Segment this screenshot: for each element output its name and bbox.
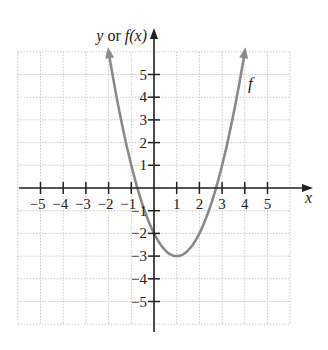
y-tick-label: −1 [131,203,147,219]
y-tick-label: 2 [140,135,148,151]
y-axis-arrow-icon [150,28,158,39]
x-tick-label: 4 [241,196,249,212]
function-graph: −5−4−3−2−112345−5−4−3−2−112345 y or f(x)… [0,0,328,350]
y-tick-label: 3 [140,112,148,128]
y-tick-label: −3 [131,248,147,264]
curve-label-f: f [248,74,255,93]
y-axis-label-or: or [103,27,124,44]
y-axis-label: y or f(x) [94,27,147,45]
y-tick-label: 5 [140,67,148,83]
x-tick-label: 5 [264,196,272,212]
x-axis-label: x [304,189,312,206]
x-tick-label: −4 [52,196,68,212]
x-tick-label: 2 [196,196,204,212]
y-tick-label: 1 [140,157,148,173]
x-tick-label: 3 [218,196,226,212]
y-tick-label: −5 [131,294,147,310]
x-tick-label: −3 [75,196,91,212]
y-tick-label: −2 [131,225,147,241]
y-tick-label: 4 [140,89,148,105]
x-tick-label: −2 [98,196,114,212]
x-tick-label: 1 [173,196,181,212]
curve-arrow-icon [239,47,248,59]
x-tick-label: −5 [30,196,46,212]
y-tick-label: −4 [131,271,147,287]
curve-arrow-icon [105,47,114,59]
